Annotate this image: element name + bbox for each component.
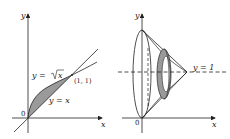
x-axis-label: x [101, 120, 106, 129]
svg-text:x: x [58, 71, 63, 80]
left-figure: y x 0 y = x y = x (1, 1) [12, 11, 106, 133]
origin-label: 0 [135, 119, 139, 127]
intersection-label: (1, 1) [74, 77, 92, 85]
origin-label: 0 [21, 110, 25, 118]
intersection-point [71, 74, 73, 76]
rotation-axis-label: y = 1 [192, 63, 214, 72]
diagram-canvas: y x 0 y = x y = x (1, 1) [0, 0, 230, 139]
line-label: y = x [48, 96, 70, 105]
washer [157, 49, 171, 99]
x-axis-label: x [212, 120, 217, 129]
svg-text:y =: y = [31, 71, 46, 80]
right-figure: y x 0 y = 1 [118, 11, 228, 133]
y-axis-label: y [20, 11, 26, 20]
sqrt-curve-label: y = x [31, 70, 64, 80]
line-y-equals-x [14, 49, 98, 132]
y-axis-label: y [134, 11, 140, 20]
